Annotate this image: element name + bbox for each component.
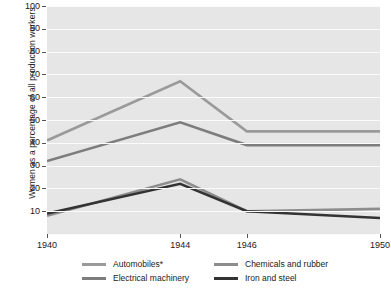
legend-label: Chemicals and rubber bbox=[245, 260, 328, 269]
gridline bbox=[47, 97, 380, 98]
series-line bbox=[47, 122, 380, 161]
legend-swatch-icon bbox=[214, 263, 238, 266]
y-tick-label: 70 bbox=[30, 70, 40, 79]
x-tick-mark bbox=[380, 234, 381, 238]
gridline bbox=[47, 74, 380, 75]
gridline bbox=[47, 120, 380, 121]
x-tick-mark bbox=[47, 234, 48, 238]
y-tick-mark bbox=[42, 29, 46, 30]
gridline bbox=[47, 6, 380, 7]
gridline bbox=[47, 166, 380, 167]
chart-legend: Automobiles* Electrical machinery Chemic… bbox=[82, 258, 382, 288]
line-chart: Women as a percentage of all production … bbox=[0, 0, 391, 291]
gridline bbox=[47, 29, 380, 30]
legend-label: Automobiles* bbox=[113, 260, 163, 269]
legend-swatch-icon bbox=[82, 277, 106, 280]
y-tick-mark bbox=[42, 97, 46, 98]
legend-swatch-icon bbox=[214, 277, 238, 280]
y-tick-mark bbox=[42, 143, 46, 144]
x-tick-label: 1946 bbox=[237, 241, 257, 250]
y-tick-mark bbox=[42, 188, 46, 189]
y-tick-label: 100 bbox=[25, 2, 40, 11]
y-tick-mark bbox=[42, 166, 46, 167]
x-tick-mark bbox=[247, 234, 248, 238]
x-axis-ticks: 1940194419461950 bbox=[0, 234, 391, 258]
y-tick-label: 40 bbox=[30, 138, 40, 147]
plot-area bbox=[47, 6, 380, 234]
y-axis-ticks: 102030405060708090100 bbox=[0, 0, 47, 240]
y-tick-mark bbox=[42, 211, 46, 212]
legend-swatch-icon bbox=[82, 263, 106, 266]
y-tick-label: 80 bbox=[30, 47, 40, 56]
legend-item-automobiles: Automobiles* bbox=[82, 258, 163, 271]
x-tick-label: 1950 bbox=[370, 241, 390, 250]
y-tick-label: 30 bbox=[30, 161, 40, 170]
y-tick-label: 90 bbox=[30, 24, 40, 33]
series-line bbox=[47, 81, 380, 140]
x-tick-label: 1944 bbox=[170, 241, 190, 250]
gridline bbox=[47, 143, 380, 144]
legend-label: Electrical machinery bbox=[113, 274, 189, 283]
y-tick-mark bbox=[42, 74, 46, 75]
legend-item-chemicals-and-rubber: Chemicals and rubber bbox=[214, 258, 328, 271]
y-tick-label: 50 bbox=[30, 116, 40, 125]
y-tick-mark bbox=[42, 6, 46, 7]
gridline bbox=[47, 211, 380, 212]
y-tick-mark bbox=[42, 120, 46, 121]
x-tick-mark bbox=[180, 234, 181, 238]
gridline bbox=[47, 188, 380, 189]
gridline bbox=[47, 52, 380, 53]
legend-item-iron-and-steel: Iron and steel bbox=[214, 272, 297, 285]
x-tick-label: 1940 bbox=[37, 241, 57, 250]
y-tick-mark bbox=[42, 52, 46, 53]
y-tick-label: 20 bbox=[30, 184, 40, 193]
legend-label: Iron and steel bbox=[245, 274, 297, 283]
legend-item-electrical-machinery: Electrical machinery bbox=[82, 272, 189, 285]
y-tick-label: 10 bbox=[30, 207, 40, 216]
y-tick-label: 60 bbox=[30, 93, 40, 102]
